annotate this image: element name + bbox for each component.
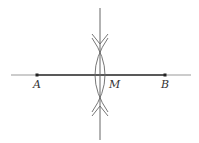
label-a: A bbox=[33, 79, 41, 90]
label-m: M bbox=[109, 79, 120, 90]
construction-diagram bbox=[0, 0, 199, 143]
label-b: B bbox=[161, 79, 169, 90]
point-a bbox=[36, 74, 39, 77]
point-b bbox=[164, 74, 167, 77]
